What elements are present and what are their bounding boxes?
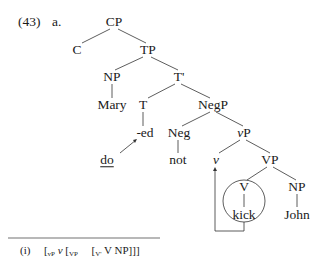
syntax-tree-lines <box>0 0 323 257</box>
node-tp: TP <box>140 43 156 57</box>
leaf-mary: Mary <box>97 98 126 112</box>
footnote: (i) [vP v [VP [V' V NP]]] <box>20 244 140 257</box>
node-neg: Neg <box>168 126 191 140</box>
example-sub-label: a. <box>52 15 61 29</box>
leaf-kick: kick <box>232 208 255 222</box>
node-np-subject: NP <box>103 70 120 84</box>
node-vp-little: vP <box>237 126 251 140</box>
little-v: v <box>237 125 243 140</box>
footnote-marker: (i) <box>20 244 30 256</box>
leaf-not: not <box>169 153 186 167</box>
leaf-john: John <box>284 208 310 222</box>
leaf-ed: -ed <box>136 126 153 140</box>
arrowhead-icon <box>213 167 217 171</box>
node-v: V <box>239 180 249 194</box>
node-vp: VP <box>261 153 278 167</box>
node-np-object: NP <box>288 180 305 194</box>
node-v-little: v <box>213 153 219 167</box>
node-cp: CP <box>106 15 123 29</box>
node-c: C <box>72 43 81 57</box>
example-number: (43) <box>18 15 41 29</box>
node-t-bar: T' <box>174 70 185 84</box>
node-t: T <box>139 98 147 112</box>
node-negp: NegP <box>198 98 228 112</box>
leaf-do: do <box>100 153 114 167</box>
